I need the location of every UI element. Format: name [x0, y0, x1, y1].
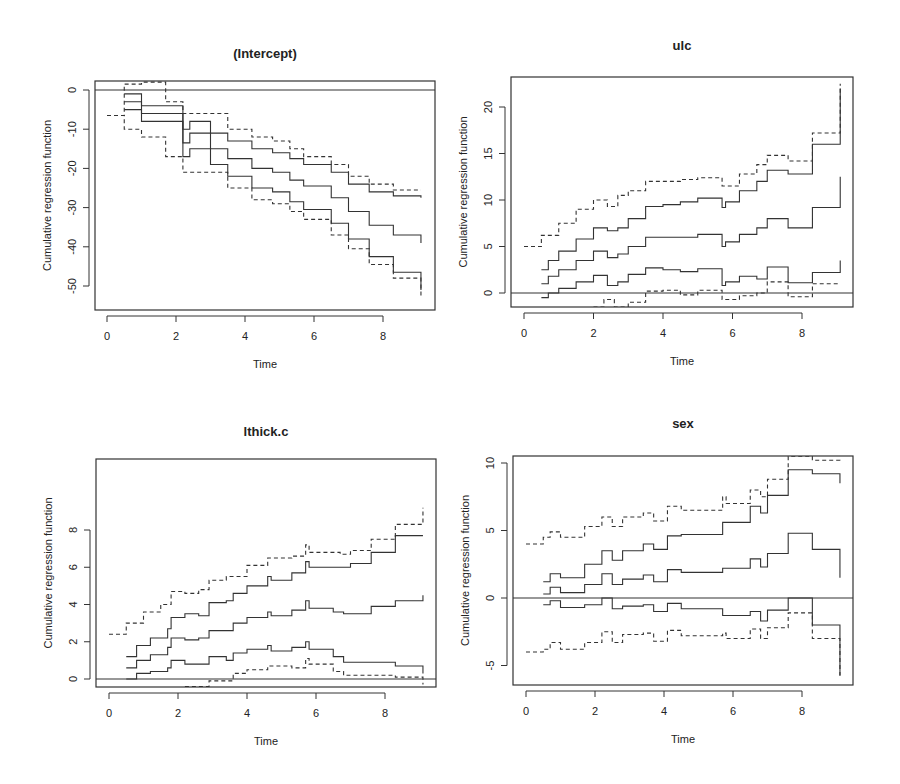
x-tick-label: 6 [729, 327, 735, 339]
figure-canvas: (Intercept)02468Time0-10-20-30-40-50Cumu… [0, 0, 900, 784]
y-tick-label: -50 [66, 278, 78, 294]
plot-frame [96, 459, 436, 687]
y-axis: 02468 [67, 527, 90, 682]
y-axis-label: Cumulative regression function [457, 116, 469, 267]
y-tick-label: 0 [482, 290, 494, 296]
series-group [95, 82, 435, 298]
panel-lthick-c: lthick.c02468Time02468Cumulative regress… [42, 424, 436, 747]
series-lower-band [526, 613, 840, 679]
x-tick-label: 0 [106, 707, 112, 719]
x-tick-label: 4 [242, 330, 248, 342]
y-tick-label: 20 [482, 101, 494, 113]
x-axis: 02468 [104, 316, 386, 342]
panel-title: lthick.c [244, 424, 289, 439]
y-tick-label: 10 [482, 194, 494, 206]
x-tick-label: 4 [661, 705, 667, 717]
x-axis-label: Time [671, 733, 695, 745]
y-tick-label: 15 [482, 147, 494, 159]
x-tick-label: 2 [590, 327, 596, 339]
y-tick-label: 10 [484, 457, 496, 469]
y-tick-label: 5 [482, 243, 494, 249]
y-tick-label: -20 [66, 160, 78, 176]
series-upper-band [109, 508, 423, 635]
panel-title: ulc [673, 38, 692, 53]
x-tick-label: 0 [523, 705, 529, 717]
panel--intercept-: (Intercept)02468Time0-10-20-30-40-50Cumu… [41, 46, 435, 370]
x-tick-label: 0 [521, 327, 527, 339]
x-tick-label: 2 [173, 330, 179, 342]
y-tick-label: 8 [67, 527, 79, 533]
y-tick-label: 0 [484, 595, 496, 601]
plot-frame [511, 77, 853, 307]
x-tick-label: 8 [382, 707, 388, 719]
y-tick-label: -5 [484, 661, 496, 671]
y-tick-label: -10 [66, 121, 78, 137]
x-axis: 02468 [523, 691, 805, 717]
x-tick-label: 0 [104, 330, 110, 342]
plot-frame [95, 81, 435, 310]
x-tick-label: 8 [799, 327, 805, 339]
y-tick-label: 5 [484, 527, 496, 533]
series-upper-CI [543, 470, 840, 582]
y-tick-label: -40 [66, 239, 78, 255]
y-tick-label: 2 [67, 639, 79, 645]
series-lower-CI [541, 260, 840, 297]
x-tick-label: 2 [592, 705, 598, 717]
plot-frame [513, 456, 853, 685]
x-axis-label: Time [253, 358, 277, 370]
x-tick-label: 2 [175, 707, 181, 719]
y-tick-label: 0 [67, 676, 79, 682]
x-axis: 02468 [106, 693, 388, 719]
y-tick-label: -30 [66, 200, 78, 216]
panel-title: (Intercept) [233, 46, 297, 61]
panel-sex: sex02468Time-50510Cumulative regression … [459, 416, 853, 745]
x-tick-label: 4 [244, 707, 250, 719]
series-upper-CI [124, 94, 421, 198]
series-lower-CI [543, 598, 840, 675]
x-tick-label: 6 [311, 330, 317, 342]
x-tick-label: 8 [799, 705, 805, 717]
series-lower-band [107, 115, 421, 297]
x-tick-label: 8 [380, 330, 386, 342]
series-estimate [543, 533, 840, 594]
series-estimate [541, 177, 840, 284]
x-axis: 02468 [521, 313, 805, 339]
x-tick-label: 6 [730, 705, 736, 717]
y-axis: 0-10-20-30-40-50 [66, 87, 89, 294]
series-upper-band [524, 84, 840, 247]
y-axis-label: Cumulative regression function [459, 495, 471, 646]
y-axis-label: Cumulative regression function [41, 120, 53, 271]
y-tick-label: 4 [67, 601, 79, 607]
series-upper-band [107, 82, 421, 190]
series-lower-band [594, 282, 841, 307]
y-tick-label: 6 [67, 564, 79, 570]
x-axis-label: Time [670, 355, 694, 367]
panel-title: sex [672, 416, 694, 431]
series-estimate [124, 102, 421, 243]
series-group [511, 84, 853, 307]
y-tick-label: 0 [66, 87, 78, 93]
y-axis: 05101520 [482, 101, 505, 296]
series-group [96, 508, 436, 687]
series-estimate [126, 595, 423, 668]
x-tick-label: 6 [313, 707, 319, 719]
panel-ulc: ulc02468Time05101520Cumulative regressio… [457, 38, 853, 367]
y-axis-label: Cumulative regression function [42, 497, 54, 648]
y-axis: -50510 [484, 457, 507, 671]
x-axis-label: Time [254, 735, 278, 747]
series-group [513, 456, 853, 679]
x-tick-label: 4 [660, 327, 666, 339]
